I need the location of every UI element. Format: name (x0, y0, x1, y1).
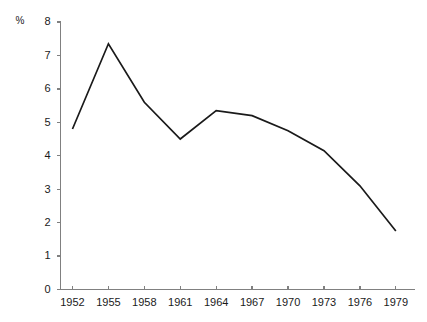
y-axis-tick-label: 4 (44, 149, 50, 161)
y-axis-tick-label: 0 (44, 283, 50, 295)
y-axis-tick-label: 7 (44, 49, 50, 61)
y-axis-tick-label: 6 (44, 82, 50, 94)
y-axis-tick-label: 8 (44, 15, 50, 27)
x-axis-tick-label: 1964 (204, 296, 228, 308)
x-axis-tick-label: 1961 (168, 296, 192, 308)
y-axis-tick-label: 1 (44, 249, 50, 261)
x-axis-tick-label: 1970 (276, 296, 300, 308)
x-axis-tick-label: 1958 (132, 296, 156, 308)
chart-canvas: % 012345678 1952195519581961196419671970… (0, 0, 427, 322)
y-axis-tick-label: 5 (44, 116, 50, 128)
x-axis-tick-label: 1967 (240, 296, 264, 308)
x-axis-tick-label: 1976 (348, 296, 372, 308)
y-axis-tick-label: 2 (44, 216, 50, 228)
chart-background (0, 0, 427, 322)
x-axis-tick-label: 1973 (312, 296, 336, 308)
x-axis-tick-label: 1952 (60, 296, 84, 308)
y-axis-tick-label: 3 (44, 183, 50, 195)
x-axis-tick-label: 1955 (96, 296, 120, 308)
x-axis-tick-label: 1979 (384, 296, 408, 308)
y-axis-unit-label: % (16, 15, 25, 26)
line-chart-figure: % 012345678 1952195519581961196419671970… (0, 0, 427, 322)
